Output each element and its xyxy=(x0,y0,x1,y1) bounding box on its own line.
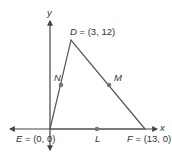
label-d: D = (3, 12) xyxy=(70,26,115,37)
label-l: L xyxy=(95,133,100,144)
label-m: M xyxy=(114,72,122,83)
x-axis-label: x xyxy=(159,122,166,133)
label-e: E = (0, 0) xyxy=(16,133,55,144)
point-m xyxy=(107,83,112,88)
point-l xyxy=(95,127,100,132)
triangle-def xyxy=(50,40,145,129)
label-f: F = (13, 0) xyxy=(127,133,171,144)
label-n: N xyxy=(54,72,61,83)
y-axis-label: y xyxy=(46,7,53,18)
coordinate-diagram: x y D = (3, 12) N M L E = (0, 0) F = (13… xyxy=(0,0,172,158)
point-n xyxy=(59,83,64,88)
